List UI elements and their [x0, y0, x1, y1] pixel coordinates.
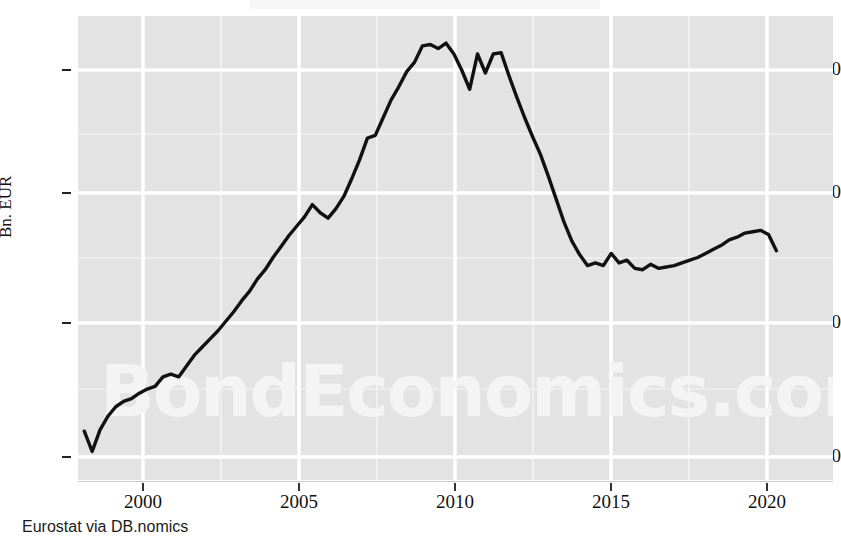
x-tick-label-2020: 2020: [727, 491, 807, 513]
x-tick-label-2015: 2015: [571, 491, 651, 513]
y-tick-mark-60: [62, 69, 71, 71]
x-tick-mark-2020: [766, 483, 768, 491]
source-footnote: Eurostat via DB.nomics: [22, 518, 188, 536]
watermark-text: BondEconomics.com: [100, 349, 833, 433]
x-tick-label-2000: 2000: [103, 491, 183, 513]
x-tick-mark-2015: [610, 483, 612, 491]
x-axis-line: [78, 481, 833, 482]
plot-svg: BondEconomics.com: [78, 16, 833, 480]
x-tick-mark-2010: [454, 483, 456, 491]
y-axis-label: Bn. EUR: [0, 176, 16, 238]
x-tick-label-2010: 2010: [415, 491, 495, 513]
x-tick-mark-2000: [142, 483, 144, 491]
y-tick-mark-30: [62, 456, 71, 458]
y-tick-mark-40: [62, 322, 71, 324]
x-tick-label-2005: 2005: [259, 491, 339, 513]
plot-area: BondEconomics.com: [78, 16, 833, 480]
y-tick-mark-50: [62, 192, 71, 194]
chart-container: Bn. EUR 60 50 40 30: [0, 0, 841, 548]
cropped-title-strip: [250, 0, 600, 9]
x-tick-mark-2005: [298, 483, 300, 491]
